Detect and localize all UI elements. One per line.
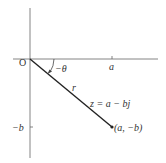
radius-label: r (72, 82, 76, 93)
point-label: (a, −b) (114, 122, 143, 134)
y-tick-label: −b (12, 122, 24, 133)
vector-r (30, 59, 112, 127)
x-tick-label: a (109, 61, 114, 72)
complex-plane-diagram: O −θ a −b r z = a − bj (a, −b) (0, 0, 166, 163)
equation-label: z = a − bj (89, 98, 130, 109)
origin-label: O (19, 57, 26, 68)
angle-arc (50, 59, 54, 72)
angle-label: −θ (55, 63, 67, 74)
